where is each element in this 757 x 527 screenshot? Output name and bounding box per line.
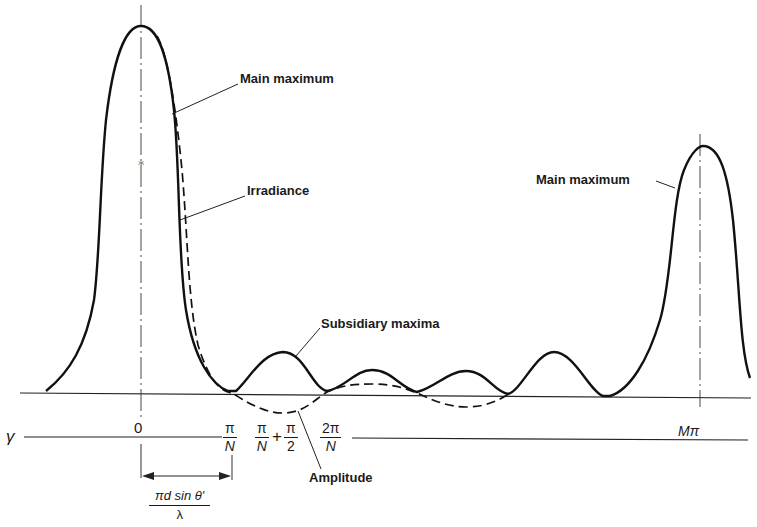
tick3-num: 2π [320, 421, 341, 438]
label-amplitude: Amplitude [309, 470, 373, 485]
tick-pi-over-2: π 2 [284, 421, 298, 454]
center-glyph: ж [138, 159, 145, 167]
tick-2pi-over-n: 2π N [320, 421, 341, 454]
leader-main-max-left [172, 84, 238, 114]
diagram-canvas: ж [0, 0, 757, 527]
dimension-den: λ [176, 506, 183, 522]
tick-pi-over-n-a: π N [255, 421, 269, 454]
irradiance-curve [46, 26, 750, 396]
tick2-plus: + [272, 427, 282, 447]
dimension-label: πd sin θ' λ [149, 488, 210, 522]
label-subsidiary-maxima: Subsidiary maxima [321, 316, 440, 331]
leader-main-max-right [656, 181, 675, 188]
label-irradiance: Irradiance [247, 183, 309, 198]
label-main-maximum-left: Main maximum [240, 71, 334, 86]
tick-pi-over-n-label: π N [223, 421, 237, 454]
tick2b-num: π [284, 421, 298, 438]
tick-m-pi: Mπ [678, 423, 699, 439]
axis-variable-gamma: γ [6, 427, 15, 447]
arrowhead-left [142, 472, 154, 480]
amplitude-curve [157, 36, 510, 413]
tick3-den: N [326, 438, 336, 454]
arrowhead-right [219, 472, 231, 480]
dimension-num: πd sin θ' [149, 488, 210, 506]
tick2a-num: π [255, 421, 269, 438]
leader-subsidiary [296, 328, 320, 356]
tick2a-den: N [257, 438, 267, 454]
tick1-num: π [223, 421, 237, 438]
baseline [20, 393, 751, 398]
leader-amplitude [298, 411, 321, 469]
tick2b-den: 2 [287, 438, 295, 454]
label-main-maximum-right: Main maximum [536, 172, 630, 187]
tick1-den: N [225, 438, 235, 454]
leader-irradiance [180, 196, 245, 220]
tick-origin: 0 [134, 419, 142, 436]
